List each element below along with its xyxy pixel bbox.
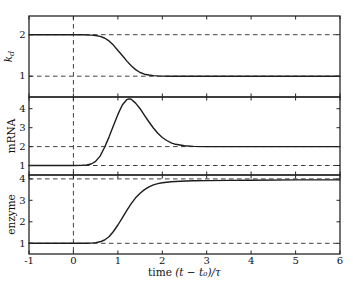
- panel-1-ytick-label-1: 1: [19, 70, 25, 81]
- x-tick-label-0: 0: [70, 255, 76, 266]
- panel-3-ytick-label-2: 2: [19, 216, 25, 227]
- x-tick-label--1: -1: [24, 255, 34, 266]
- x-axis-label-math: (t − t₀)/τ: [175, 266, 221, 278]
- kd-label-sub: d: [7, 51, 16, 56]
- panel-2-box: [29, 97, 340, 175]
- panel-2-ytick-label-4: 4: [19, 103, 25, 114]
- panel-3-ylabel: enzyme: [5, 194, 17, 235]
- panel-1-curve: [29, 35, 340, 76]
- panel-2-ytick-label-2: 2: [19, 141, 25, 152]
- panel-2-ytick-label-1: 1: [19, 160, 25, 171]
- panel-2-ylabel: mRNA: [5, 118, 17, 153]
- x-axis-label-word: time: [148, 266, 172, 278]
- panel-3-curve: [29, 180, 340, 243]
- x-tick-label-1: 1: [115, 255, 121, 266]
- panel-3-ytick-label-1: 1: [19, 238, 25, 249]
- plot-svg: kd mRNA enzyme time (t − t₀)/τ 121234123…: [0, 0, 353, 293]
- x-tick-label-4: 4: [248, 255, 254, 266]
- panel-3-box: [29, 175, 340, 254]
- three-panel-line-figure: kd mRNA enzyme time (t − t₀)/τ 121234123…: [0, 0, 353, 293]
- x-axis-label: time (t − t₀)/τ: [148, 266, 221, 278]
- x-tick-label-5: 5: [292, 255, 298, 266]
- panel-1-ytick-label-2: 2: [19, 29, 25, 40]
- panel-2-curve: [29, 99, 340, 166]
- x-tick-label-2: 2: [159, 255, 165, 266]
- panel-1-box: [29, 16, 340, 97]
- panel-3-ytick-label-3: 3: [19, 195, 25, 206]
- panel-2-ytick-label-3: 3: [19, 122, 25, 133]
- x-tick-label-3: 3: [204, 255, 210, 266]
- x-tick-label-6: 6: [337, 255, 343, 266]
- panel-1-ylabel: kd: [2, 51, 16, 63]
- panel-3-ytick-label-4: 4: [19, 173, 25, 184]
